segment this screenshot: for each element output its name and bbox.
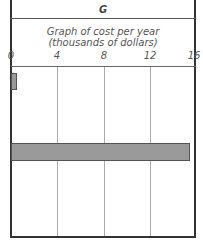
x-tick-4: 4 [54, 50, 60, 61]
bar-row-1 [11, 73, 17, 90]
plot-area [11, 66, 196, 238]
x-tick-8: 8 [101, 50, 107, 61]
x-tick-12: 12 [144, 50, 157, 61]
chart-title: Graph of cost per year (thousands of dol… [10, 26, 196, 48]
x-tick-16: 16 [188, 50, 201, 61]
chart-title-line1: Graph of cost per year [10, 26, 196, 37]
column-header: G [10, 0, 196, 19]
x-tick-0: 0 [8, 50, 14, 61]
chart-title-line2: (thousands of dollars) [10, 37, 196, 48]
bar-row-2 [11, 143, 190, 161]
